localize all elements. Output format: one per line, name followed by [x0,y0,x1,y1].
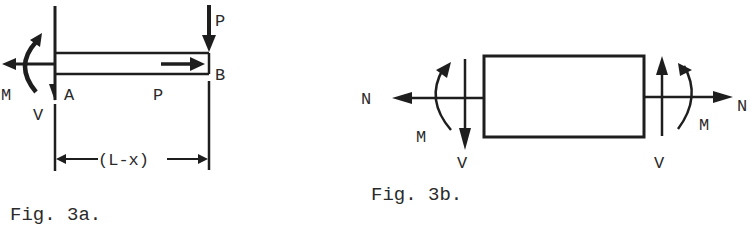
label-load-p: P [215,12,225,31]
left-moment-arc-icon [436,62,451,130]
label-shear-v: V [33,106,44,125]
label-right-v: V [654,154,665,173]
dimension-arrow-right-icon [167,154,208,164]
right-normal-arrow-right-icon [644,91,733,103]
caption-fig-3a: Fig. 3a. [10,204,101,226]
left-normal-arrow-left-icon [392,92,484,104]
label-right-m: M [699,116,709,135]
normal-force-arrow-left-icon [2,58,55,70]
label-axial-p: P [153,86,163,105]
beam-element-rect [484,56,644,137]
label-left-v: V [457,154,468,173]
axial-p-arrow-right-icon [161,57,205,71]
label-end-a: A [64,86,75,105]
fig-3b: N M V N M V Fig. 3b. [361,56,747,206]
label-right-n: N [737,97,747,116]
fig-3a: P B A P M V (L-x) Fig. 3a. [1,5,225,226]
load-p-arrow-down-icon [202,5,216,52]
label-dimension: (L-x) [98,151,149,170]
left-shear-arrow-down-icon [459,59,471,150]
label-moment-m: M [1,86,11,105]
shear-v-arrow-down-icon [49,84,56,101]
label-left-m: M [416,128,426,147]
caption-fig-3b: Fig. 3b. [371,184,462,206]
label-left-n: N [361,90,371,109]
label-end-b: B [215,66,225,85]
diagram-canvas: P B A P M V (L-x) Fig. 3a. [0,0,753,227]
dimension-arrow-left-icon [56,154,98,164]
